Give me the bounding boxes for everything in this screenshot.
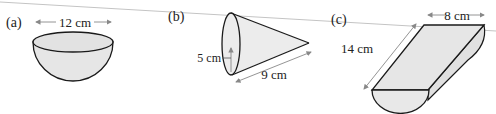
figure-c-length-label: 14 cm: [341, 41, 373, 56]
figure-b-slant-label: 9 cm: [261, 67, 287, 82]
front-semicircle-face: [372, 90, 429, 113]
figure-c-label: (c): [331, 12, 347, 28]
figure-b-radius-label: 5 cm: [197, 51, 221, 65]
figure-a-label: (a): [6, 15, 22, 31]
figure-panel: (a) 12 cm (b) 5 cm 9 cm (c) 8 cm 14 cm: [0, 0, 496, 114]
figure-b-label: (b): [168, 9, 185, 25]
figure-b-cone: (b) 5 cm 9 cm: [168, 9, 311, 82]
hemisphere-rim: [33, 32, 113, 52]
figure-a-hemisphere: (a) 12 cm: [6, 15, 113, 81]
figure-a-diameter-label: 12 cm: [59, 15, 91, 30]
figures-svg: (a) 12 cm (b) 5 cm 9 cm (c) 8 cm 14 cm: [0, 0, 496, 114]
figure-c-diameter-label: 8 cm: [444, 8, 470, 23]
figure-c-half-cylinder: (c) 8 cm 14 cm: [331, 8, 485, 113]
